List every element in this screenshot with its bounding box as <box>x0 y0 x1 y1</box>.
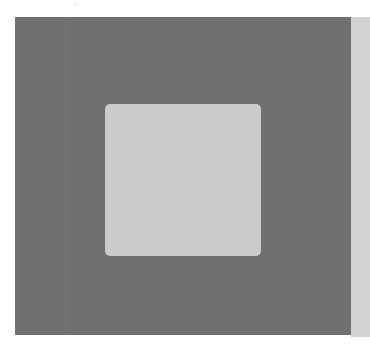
right-light-strip <box>351 17 370 337</box>
faint-vertical-line <box>65 17 66 335</box>
inner-light-square <box>105 104 261 256</box>
background-speck <box>74 4 76 6</box>
